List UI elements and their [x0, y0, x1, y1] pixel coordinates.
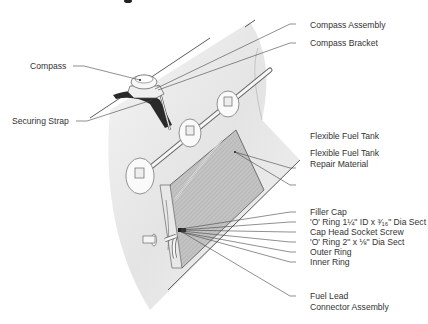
label-repair-material-line2: Repair Material [310, 159, 379, 170]
label-filler-cap: Filler Cap [310, 207, 347, 218]
label-inner-ring: Inner Ring [310, 257, 350, 268]
label-outer-ring: Outer Ring [310, 247, 352, 258]
label-repair-material: Flexible Fuel Tank Repair Material [310, 148, 379, 169]
label-fuel-lead-line1: Fuel Lead [310, 291, 389, 302]
label-cap-head-socket-screw: Cap Head Socket Screw [310, 227, 404, 238]
label-compass: Compass [30, 61, 66, 72]
label-fuel-lead-connector: Fuel Lead Connector Assembly [310, 291, 389, 312]
label-o-ring-small: 'O' Ring 1¼" ID x ³⁄₁₆" Dia Sect [310, 217, 426, 228]
label-compass-assembly: Compass Assembly [310, 20, 385, 31]
label-flexible-fuel-tank: Flexible Fuel Tank [310, 131, 379, 142]
label-securing-strap: Securing Strap [12, 116, 69, 127]
title-fragment [124, 0, 132, 3]
label-repair-material-line1: Flexible Fuel Tank [310, 148, 379, 159]
label-compass-bracket: Compass Bracket [310, 38, 378, 49]
label-o-ring-large: 'O' Ring 2" x ⅛" Dia Sect [310, 237, 404, 248]
fuel-tank-installation-diagram: Compass Securing Strap Compass Assembly … [0, 0, 428, 324]
label-fuel-lead-line2: Connector Assembly [310, 302, 389, 313]
